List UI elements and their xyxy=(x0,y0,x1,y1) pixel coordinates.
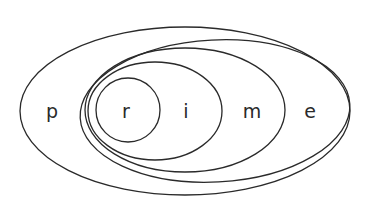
set-m-label: m xyxy=(243,100,262,122)
set-i-label: i xyxy=(183,100,188,122)
set-r-label: r xyxy=(122,100,130,122)
set-i-ellipse xyxy=(88,62,222,160)
set-e-label: e xyxy=(304,100,316,122)
set-p-label: p xyxy=(46,100,58,122)
nested-ellipse-diagram: pemir xyxy=(0,0,366,216)
